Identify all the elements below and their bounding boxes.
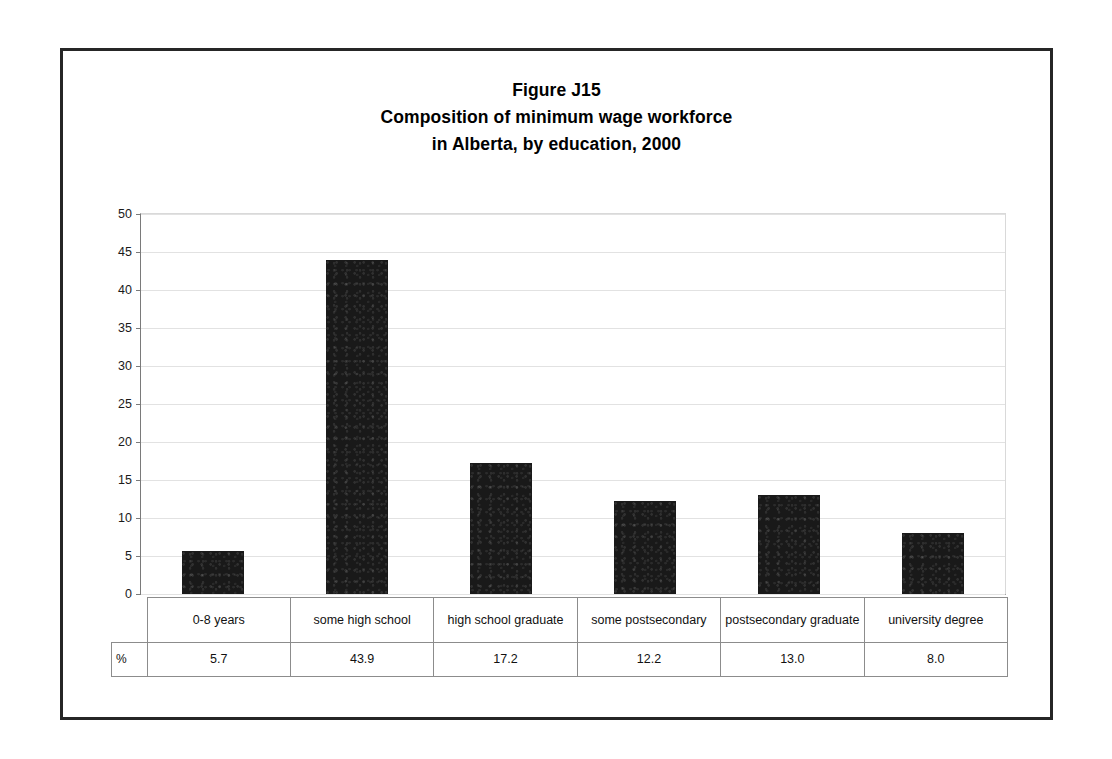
y-axis-tick-label: 45 [118,245,132,259]
chart-title-line-3: in Alberta, by education, 2000 [63,131,1050,158]
bar[interactable] [470,463,532,594]
bar[interactable] [326,260,388,594]
y-axis-tick-label: 5 [125,549,132,563]
value-cell: 8.0 [864,643,1007,677]
bar-slot [141,214,285,594]
y-axis-tick-label: 10 [118,511,132,525]
bar-slot [573,214,717,594]
bar[interactable] [902,533,964,594]
y-axis-tick-label: 15 [118,473,132,487]
table-row-categories: 0-8 yearssome high schoolhigh school gra… [112,598,1008,643]
bar-slot [429,214,573,594]
plot-area: 05101520253035404550 [140,213,1006,595]
bar[interactable] [758,495,820,594]
figure-frame: Figure J15 Composition of minimum wage w… [60,48,1053,720]
y-axis-tick-label: 20 [118,435,132,449]
chart-title: Figure J15 Composition of minimum wage w… [63,77,1050,158]
gridline [141,594,1005,595]
y-axis-tick-label: 40 [118,283,132,297]
bar[interactable] [182,551,244,594]
category-cell: some postsecondary [577,598,720,643]
category-cell: postsecondary graduate [721,598,864,643]
chart-title-line-2: Composition of minimum wage workforce [63,104,1050,131]
value-cell: 5.7 [147,643,290,677]
unit-label-cell: % [112,643,148,677]
y-axis-tick-mark [136,594,141,595]
y-axis-tick-label: 50 [118,207,132,221]
category-cell: 0-8 years [147,598,290,643]
bar-slot [285,214,429,594]
y-axis-tick-label: 35 [118,321,132,335]
bar-slot [717,214,861,594]
category-cell: high school graduate [434,598,577,643]
category-cell: some high school [290,598,433,643]
y-axis-tick-label: 25 [118,397,132,411]
bar[interactable] [614,501,676,594]
table-row-values: % 5.743.917.212.213.08.0 [112,643,1008,677]
bar-slot [861,214,1005,594]
value-cell: 17.2 [434,643,577,677]
chart-title-line-1: Figure J15 [63,77,1050,104]
value-cell: 13.0 [721,643,864,677]
data-table: 0-8 yearssome high schoolhigh school gra… [111,597,1008,677]
value-cell: 12.2 [577,643,720,677]
y-axis-tick-label: 30 [118,359,132,373]
value-cell: 43.9 [290,643,433,677]
table-corner-blank [112,598,148,643]
category-cell: university degree [864,598,1007,643]
bars-layer [141,214,1005,594]
